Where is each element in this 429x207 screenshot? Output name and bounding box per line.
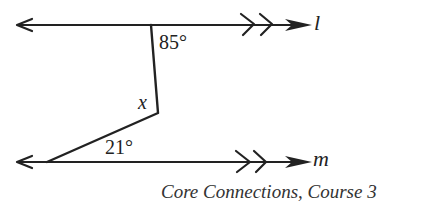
- line-label-m: m: [313, 146, 329, 172]
- line-label-l: l: [314, 10, 320, 36]
- caption: Core Connections, Course 3: [161, 181, 377, 203]
- angle-label-21: 21°: [105, 136, 133, 159]
- parallel-lines-figure: [0, 0, 429, 207]
- angle-label-x: x: [138, 91, 147, 114]
- angle-label-85: 85°: [159, 31, 187, 54]
- diagram-canvas: l m 85° x 21° Core Connections, Course 3: [0, 0, 429, 207]
